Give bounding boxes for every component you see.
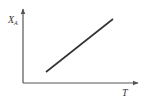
data-line — [46, 19, 113, 72]
x-axis-label: T — [122, 87, 129, 98]
diagram-figure: XA T — [0, 0, 143, 98]
y-axis-label: XA — [7, 14, 18, 26]
y-axis-label-sub: A — [13, 20, 18, 26]
